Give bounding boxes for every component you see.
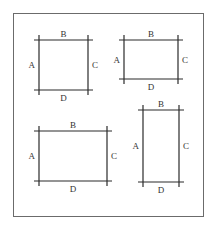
label-c: C: [183, 141, 189, 151]
shapes-group: BDACBDACBDACBDAC: [29, 29, 190, 195]
label-d: D: [148, 82, 155, 92]
label-a: A: [133, 141, 140, 151]
label-d: D: [60, 93, 67, 103]
rectangle-2: BDAC: [114, 29, 189, 92]
label-b: B: [60, 29, 66, 39]
rectangle-4: BDAC: [133, 99, 190, 195]
label-c: C: [111, 151, 117, 161]
label-c: C: [182, 55, 188, 65]
outer-frame: [14, 14, 204, 217]
label-b: B: [158, 99, 164, 109]
label-a: A: [29, 60, 36, 70]
rectangle-3: BDAC: [29, 120, 118, 194]
rectangles-diagram: BDACBDACBDACBDAC: [0, 0, 209, 225]
label-d: D: [70, 184, 77, 194]
label-b: B: [70, 120, 76, 130]
label-c: C: [92, 60, 98, 70]
rectangle-1: BDAC: [29, 29, 99, 103]
label-a: A: [29, 151, 36, 161]
label-a: A: [114, 55, 121, 65]
label-d: D: [158, 185, 165, 195]
label-b: B: [148, 29, 154, 39]
